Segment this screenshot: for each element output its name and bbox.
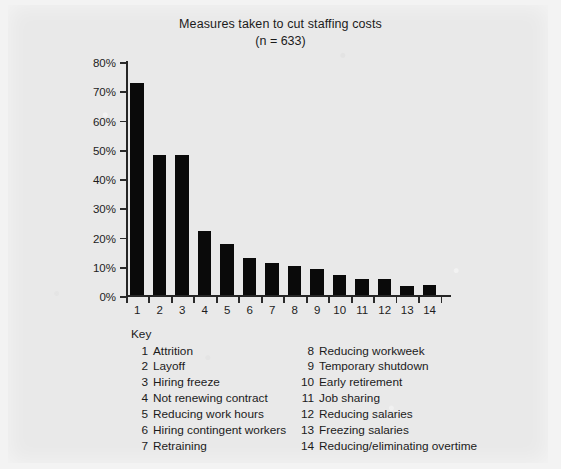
y-axis-tick	[120, 150, 126, 152]
x-axis-tick	[306, 297, 308, 303]
bar	[378, 279, 391, 295]
key-heading: Key	[131, 327, 461, 343]
chart-title-block: Measures taken to cut staffing costs (n …	[0, 16, 561, 50]
bar	[220, 244, 233, 295]
x-axis-tick-label: 8	[291, 304, 297, 316]
key-item-label: Reducing/eliminating overtime	[319, 439, 477, 455]
key-item-number: 12	[297, 407, 314, 423]
x-axis-tick	[148, 297, 150, 303]
x-axis-tick-label: 3	[179, 304, 185, 316]
x-axis-tick	[216, 297, 218, 303]
y-axis-tick	[120, 121, 126, 123]
key-item-number: 5	[131, 407, 148, 423]
key-item-label: Not renewing contract	[153, 391, 268, 407]
x-axis-tick	[126, 297, 128, 303]
key-item-number: 1	[131, 344, 148, 360]
key-item: 4Not renewing contract	[131, 391, 286, 407]
x-axis-tick-label: 1	[134, 304, 140, 316]
key-item-label: Attrition	[153, 344, 193, 360]
key-item: 9Temporary shutdown	[297, 359, 477, 375]
key-item-number: 11	[297, 391, 314, 407]
key-item: 3Hiring freeze	[131, 375, 286, 391]
key-item-label: Job sharing	[319, 391, 380, 407]
y-axis-tick	[120, 91, 126, 93]
x-axis-tick-label: 9	[314, 304, 320, 316]
bar	[243, 258, 256, 295]
bar	[175, 155, 188, 295]
key-columns: 1Attrition2Layoff3Hiring freeze4Not rene…	[131, 344, 461, 454]
key-item-number: 13	[297, 423, 314, 439]
key-item-label: Freezing salaries	[319, 423, 409, 439]
y-axis-tick	[120, 179, 126, 181]
x-axis-tick	[351, 297, 353, 303]
x-axis-tick	[261, 297, 263, 303]
bar	[310, 269, 323, 295]
x-axis-tick	[441, 297, 443, 303]
y-axis-tick	[120, 267, 126, 269]
key-item: 14Reducing/eliminating overtime	[297, 439, 477, 455]
bar	[355, 279, 368, 295]
key-item-number: 4	[131, 391, 148, 407]
y-axis-tick-label: 60%	[93, 116, 116, 128]
x-axis-tick-label: 4	[202, 304, 208, 316]
key-column-right: 8Reducing workweek9Temporary shutdown10E…	[297, 344, 477, 455]
key-item: 11Job sharing	[297, 391, 477, 407]
x-axis-tick	[328, 297, 330, 303]
bar	[130, 83, 143, 295]
key-item-number: 2	[131, 359, 148, 375]
key-item: 5Reducing work hours	[131, 407, 286, 423]
y-axis-tick-label: 70%	[93, 86, 116, 98]
key-item-number: 7	[131, 439, 148, 455]
key-item: 1Attrition	[131, 344, 286, 360]
key-item: 12Reducing salaries	[297, 407, 477, 423]
key-item: 10Early retirement	[297, 375, 477, 391]
x-axis-tick-label: 11	[356, 304, 368, 316]
y-axis-tick-label: 0%	[99, 291, 116, 303]
page-root: Measures taken to cut staffing costs (n …	[0, 0, 561, 469]
bar	[288, 266, 301, 295]
key-item-number: 6	[131, 423, 148, 439]
bar	[153, 155, 166, 295]
x-axis-tick	[396, 297, 398, 303]
x-axis-tick	[238, 297, 240, 303]
key-item: 2Layoff	[131, 359, 286, 375]
key-item-label: Retraining	[153, 439, 207, 455]
x-axis-tick-label: 12	[378, 304, 391, 316]
x-axis-tick-label: 6	[246, 304, 252, 316]
key-item-label: Reducing work hours	[153, 407, 264, 423]
y-axis-tick	[120, 62, 126, 64]
x-axis-tick-label: 7	[269, 304, 275, 316]
bar	[423, 285, 436, 295]
x-axis-tick-label: 14	[423, 304, 436, 316]
x-axis-tick	[373, 297, 375, 303]
page-title: Measures taken to cut staffing costs	[0, 16, 561, 33]
y-axis-tick	[120, 238, 126, 240]
bar	[198, 231, 211, 295]
bar	[333, 275, 346, 295]
y-axis-tick-label: 20%	[93, 233, 116, 245]
key-item: 7Retraining	[131, 439, 286, 455]
bar-chart-plot-area: 0%10%20%30%40%50%60%70%80% 1234567891011…	[126, 61, 451, 297]
y-axis-line	[126, 61, 128, 297]
key-item-label: Early retirement	[319, 375, 402, 391]
x-axis-tick	[171, 297, 173, 303]
y-axis-tick-label: 40%	[93, 174, 116, 186]
key-item-label: Temporary shutdown	[319, 359, 429, 375]
key-item-label: Reducing salaries	[319, 407, 413, 423]
bar	[400, 286, 413, 295]
chart-subtitle: (n = 633)	[0, 33, 561, 50]
y-axis-tick-label: 80%	[93, 57, 116, 69]
x-axis-tick-label: 2	[157, 304, 163, 316]
key-item-number: 3	[131, 375, 148, 391]
key-item-label: Hiring contingent workers	[153, 423, 286, 439]
key-item-number: 8	[297, 344, 314, 360]
y-axis-tick-label: 10%	[93, 262, 116, 274]
key-item-label: Hiring freeze	[153, 375, 220, 391]
x-axis-tick	[193, 297, 195, 303]
key-item-number: 14	[297, 439, 314, 455]
key-item-number: 10	[297, 375, 314, 391]
key-item-label: Reducing workweek	[319, 344, 425, 360]
x-axis-tick-label: 13	[401, 304, 414, 316]
key-item-label: Layoff	[153, 359, 185, 375]
x-axis-line	[126, 295, 451, 297]
